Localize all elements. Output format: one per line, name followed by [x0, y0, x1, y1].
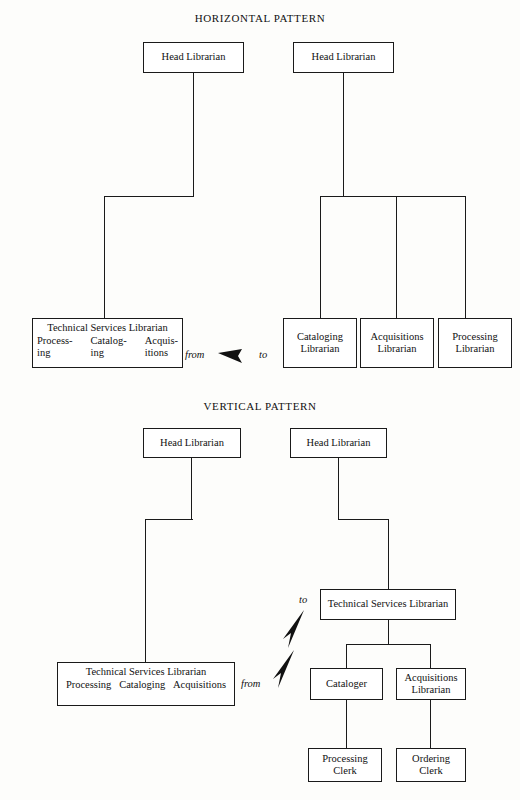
- node-label-line-1: Cataloging: [297, 331, 343, 344]
- connector-v-tsl-down: [388, 620, 389, 645]
- connector-v-to-drop: [388, 519, 389, 589]
- unit-function-acquisitions: Acquis- itions: [145, 335, 178, 358]
- connector-h-from-bus: [104, 196, 194, 197]
- vertical-to-technical-services-box: Technical Services Librarian: [320, 589, 456, 620]
- unit-function-columns: Processing Cataloging Acquisitions: [62, 679, 230, 691]
- node-label: Head Librarian: [162, 51, 226, 64]
- connector-h-to-branch-3: [465, 196, 466, 318]
- unit-head-label: Technical Services Librarian: [37, 322, 178, 334]
- node-label-line-1: Cataloger: [326, 678, 367, 691]
- node-label-line-1: Processing: [322, 753, 368, 766]
- connector-v-acquisitions-to-clerk: [430, 700, 431, 748]
- unit-head-label: Technical Services Librarian: [62, 666, 230, 678]
- connector-v-to-root-down: [338, 458, 339, 520]
- node-label: Head Librarian: [160, 437, 224, 450]
- connector-v-from-bus: [145, 519, 193, 520]
- connector-h-to-bus: [320, 196, 466, 197]
- vertical-to-acquisitions-librarian-box: Acquisitions Librarian: [396, 668, 466, 700]
- node-label-line-2: Librarian: [455, 343, 494, 356]
- unit-function-processing: Process- ing: [37, 335, 73, 358]
- horizontal-from-label: from: [185, 349, 204, 360]
- connector-h-to-branch-2: [396, 196, 397, 318]
- vertical-from-head-librarian-box: Head Librarian: [143, 428, 241, 458]
- connector-v-mid-branch-acquisitions: [430, 644, 431, 668]
- node-label-line-1: Processing: [452, 331, 498, 344]
- node-label-line-1: Acquisitions: [370, 331, 423, 344]
- unit-function-columns: Process- ing Catalog- ing Acquis- itions: [37, 335, 178, 358]
- connector-v-from-drop: [145, 519, 146, 662]
- vertical-to-cataloger-box: Cataloger: [310, 668, 383, 700]
- horizontal-from-technical-services-box: Technical Services Librarian Process- in…: [32, 318, 183, 368]
- connector-v-cataloger-to-clerk: [346, 700, 347, 748]
- right-arrow-icon: [216, 347, 252, 365]
- node-label-line-2: Clerk: [333, 765, 356, 778]
- connector-v-mid-branch-cataloger: [346, 644, 347, 668]
- connector-v-to-jog: [338, 519, 389, 520]
- node-label-line-1: Acquisitions: [404, 672, 457, 685]
- function-line-1: Catalog-: [91, 335, 127, 347]
- horizontal-pattern-title: HORIZONTAL PATTERN: [180, 12, 340, 24]
- horizontal-to-processing-librarian-box: Processing Librarian: [438, 318, 512, 368]
- vertical-from-label: from: [241, 678, 260, 689]
- unit-function-cataloging: Cataloging: [119, 679, 165, 691]
- up-right-arrow-icon-lower: [272, 648, 298, 690]
- horizontal-to-cataloging-librarian-box: Cataloging Librarian: [283, 318, 357, 368]
- unit-function-acquisitions: Acquisitions: [173, 679, 226, 691]
- node-label: Technical Services Librarian: [328, 598, 449, 611]
- node-label-line-1: Ordering: [412, 753, 450, 766]
- unit-function-processing: Processing: [66, 679, 112, 691]
- function-line-2: ing: [91, 347, 127, 359]
- vertical-to-head-librarian-box: Head Librarian: [290, 428, 387, 458]
- function-line-1: Acquis-: [145, 335, 178, 347]
- connector-h-to-root-down: [343, 73, 344, 197]
- node-label-line-2: Librarian: [377, 343, 416, 356]
- vertical-to-label: to: [299, 594, 307, 605]
- node-label: Head Librarian: [312, 51, 376, 64]
- vertical-to-ordering-clerk-box: Ordering Clerk: [396, 748, 466, 782]
- connector-h-from-root-down: [193, 73, 194, 197]
- node-label-line-2: Clerk: [419, 765, 442, 778]
- diagram-page: HORIZONTAL PATTERN Head Librarian Techni…: [0, 0, 520, 800]
- function-line-2: ing: [37, 347, 73, 359]
- node-label: Head Librarian: [307, 437, 371, 450]
- node-label-line-2: Librarian: [411, 684, 450, 697]
- connector-h-from-drop: [104, 196, 105, 318]
- node-label-line-2: Librarian: [300, 343, 339, 356]
- vertical-pattern-title: VERTICAL PATTERN: [185, 400, 335, 412]
- vertical-to-processing-clerk-box: Processing Clerk: [308, 748, 382, 782]
- horizontal-from-head-librarian-box: Head Librarian: [143, 42, 244, 73]
- connector-v-from-root-down: [191, 458, 192, 520]
- function-line-1: Process-: [37, 335, 73, 347]
- connector-v-mid-bus: [346, 644, 431, 645]
- horizontal-to-acquisitions-librarian-box: Acquisitions Librarian: [360, 318, 434, 368]
- horizontal-to-label: to: [259, 349, 267, 360]
- vertical-from-technical-services-box: Technical Services Librarian Processing …: [57, 662, 235, 706]
- function-line-2: itions: [145, 347, 178, 359]
- horizontal-to-head-librarian-box: Head Librarian: [293, 42, 394, 73]
- unit-function-cataloging: Catalog- ing: [91, 335, 127, 358]
- up-right-arrow-icon-upper: [282, 608, 308, 650]
- connector-h-to-branch-1: [320, 196, 321, 318]
